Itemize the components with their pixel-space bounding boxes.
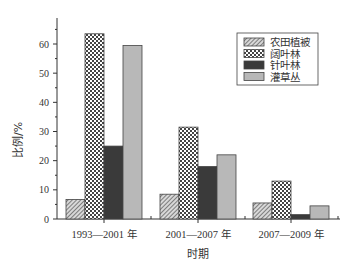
- y-tick-label: 40: [39, 97, 49, 108]
- x-axis-title: 时期: [187, 248, 209, 261]
- legend-swatch: [244, 50, 264, 58]
- bar: [123, 45, 142, 219]
- x-category-label: 1993—2001 年: [71, 228, 136, 240]
- bar: [198, 167, 217, 220]
- bar: [179, 127, 198, 219]
- bar: [291, 215, 310, 219]
- bar-chart: 01020304050601993—2001 年2001—2007 年2007—…: [0, 0, 359, 278]
- legend-label: 阔叶林: [270, 48, 301, 60]
- y-tick-label: 10: [39, 184, 49, 195]
- y-tick-label: 20: [39, 155, 49, 166]
- bar: [217, 155, 236, 219]
- y-tick-label: 0: [44, 214, 49, 225]
- bar: [272, 181, 291, 219]
- bar: [66, 199, 85, 219]
- y-tick-label: 50: [39, 68, 49, 79]
- bar: [85, 34, 104, 219]
- y-axis-title: 比例/%: [11, 122, 25, 158]
- legend-label: 灌草丛: [270, 71, 300, 83]
- bar: [104, 146, 123, 219]
- x-category-label: 2007—2009 年: [258, 228, 323, 240]
- x-category-label: 2001—2007 年: [165, 228, 230, 240]
- legend-swatch: [244, 61, 264, 69]
- bar: [310, 206, 329, 219]
- bar: [160, 194, 179, 219]
- legend: 农田植被阔叶林针叶林灌草丛: [237, 33, 318, 85]
- legend-swatch: [244, 73, 264, 81]
- bar: [253, 203, 272, 219]
- y-tick-label: 60: [39, 39, 49, 50]
- y-tick-label: 30: [39, 126, 49, 137]
- legend-swatch: [244, 38, 264, 46]
- legend-label: 针叶林: [270, 59, 301, 71]
- legend-label: 农田植被: [270, 36, 311, 48]
